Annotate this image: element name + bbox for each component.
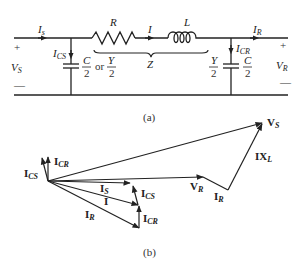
inductor-icon (168, 32, 208, 43)
r-label: R (109, 16, 117, 28)
ir-tip-label: IR (214, 190, 224, 204)
is-phasor-label: IS (100, 182, 109, 196)
phasor-diagram-b: VS IXL VR IR ICS ICR IS I IR ICS ICR (b) (24, 116, 280, 259)
ics-phasor (42, 158, 48, 181)
vs-phasor-label: VS (267, 116, 280, 130)
i-phasor (48, 181, 138, 205)
z-label: Z (147, 58, 154, 70)
vs-phasor (48, 123, 262, 181)
i-phasor-label: I (104, 195, 108, 207)
pi-model-diagram: Is R I L IR Z ICS ICR C 2 or Y 2 Y 2 C 2… (0, 0, 301, 269)
svg-text:2: 2 (211, 67, 217, 79)
vr-minus: — (279, 76, 292, 88)
vr-phasor (48, 177, 203, 181)
svg-text:C: C (83, 54, 91, 66)
vr-label: VR (276, 59, 288, 73)
svg-text:Y: Y (108, 54, 116, 66)
svg-text:2: 2 (109, 67, 115, 79)
ir-label: IR (252, 23, 262, 37)
l-label: L (183, 16, 190, 28)
caption-b: (b) (143, 246, 156, 259)
svg-text:or: or (95, 60, 105, 72)
ics-phasor-2 (133, 186, 138, 205)
svg-text:Y: Y (211, 54, 219, 66)
svg-text:2: 2 (84, 67, 90, 79)
svg-text:2: 2 (245, 67, 251, 79)
ir-phasor-label: IR (85, 208, 95, 222)
is-phasor (48, 181, 130, 183)
ics-phasor-2-label: ICS (141, 187, 156, 201)
resistor-icon (92, 32, 135, 44)
ir-drop-phasor (203, 177, 228, 190)
svg-text:C: C (244, 54, 252, 66)
caption-a: (a) (143, 111, 156, 124)
vr-plus: + (280, 39, 286, 51)
vs-plus: + (14, 41, 20, 53)
left-cap-value: C 2 or Y 2 (82, 54, 116, 79)
circuit-a: Is R I L IR Z ICS ICR C 2 or Y 2 Y 2 C 2… (11, 16, 292, 124)
icr-phasor-label: ICR (54, 155, 70, 169)
i-label: I (147, 23, 153, 35)
ixl-label: IXL (255, 150, 272, 164)
icr-phasor-2-label: ICR (143, 212, 159, 226)
vs-minus: — (13, 79, 26, 91)
vr-phasor-label: VR (190, 180, 204, 194)
vs-label: VS (11, 61, 22, 75)
is-label: Is (37, 23, 45, 37)
ics-label: ICS (52, 47, 66, 61)
ics-phasor-label: ICS (24, 167, 39, 181)
